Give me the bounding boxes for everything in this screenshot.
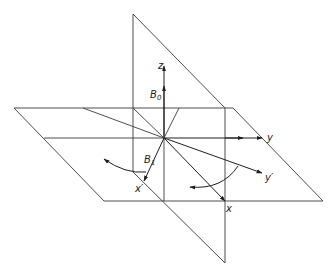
y-prime-axis	[164, 138, 262, 173]
x-prime-back-line	[164, 108, 179, 138]
x-axis	[164, 138, 225, 201]
label-x: x	[225, 203, 232, 214]
label-b1: B1	[144, 154, 155, 167]
label-b0: B0	[150, 89, 162, 102]
horizontal-plane	[14, 108, 323, 201]
label-z: z	[157, 60, 164, 71]
y-prime-back-line	[83, 108, 164, 138]
diagram-canvas: z B0 B1 y y′ x x′	[0, 0, 336, 277]
label-x-prime: x′	[134, 183, 144, 194]
x-axis-back-line	[133, 108, 164, 138]
rotation-arc-right	[190, 166, 238, 187]
label-y: y	[266, 132, 274, 143]
rotation-arc-left	[104, 159, 146, 172]
label-y-prime: y′	[264, 172, 274, 183]
